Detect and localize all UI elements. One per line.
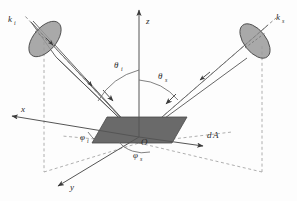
theta-i-arc (98, 70, 139, 101)
scattered-wave-vector-subscript: s (282, 18, 285, 24)
scattered-wave-vector-label: k s (276, 12, 285, 24)
origin-label: O (141, 137, 148, 147)
incident-wave-vector-symbol: k (8, 14, 13, 24)
incident-wave-vector-label: k i (8, 14, 16, 26)
z-axis-label: z (145, 16, 150, 26)
theta-i-symbol: θ (114, 60, 119, 70)
theta-i-label: θ i (114, 60, 123, 72)
scattered-wave-vector-symbol: k (276, 12, 281, 22)
phi-s-subscript: s (140, 156, 143, 162)
y-axis-label: y (69, 182, 74, 192)
phi-i-arc (88, 132, 96, 141)
theta-s-label: θ s (158, 71, 168, 83)
scattered-direction-arrow-outer (200, 72, 210, 80)
diagram-canvas: z x y O k i k s θ i θ s φ i φ s d (0, 0, 297, 201)
theta-s-symbol: θ (158, 71, 163, 81)
theta-s-arc (139, 80, 178, 100)
area-element-A: A (212, 130, 219, 140)
area-element-d: d (207, 130, 212, 140)
incident-wave-vector-subscript: i (14, 20, 16, 26)
area-element-label: d A (207, 130, 219, 140)
theta-i-subscript: i (121, 66, 123, 72)
phi-i-symbol: φ (80, 132, 85, 142)
phi-s-label: φ s (133, 150, 143, 162)
y-axis (58, 137, 139, 186)
brdf-geometry-figure: z x y O k i k s θ i θ s φ i φ s d (0, 0, 297, 201)
theta-s-subscript: s (165, 77, 168, 83)
x-axis-label: x (20, 104, 25, 114)
phi-i-subscript: i (87, 138, 89, 144)
right-ground-projection-line (139, 143, 262, 172)
projection-construction-lines (44, 42, 262, 172)
phi-i-label: φ i (80, 132, 89, 144)
scattered-ray-arrow-at-origin (166, 94, 176, 104)
scattered-cone-cap (234, 18, 276, 63)
phi-s-symbol: φ (133, 150, 138, 160)
